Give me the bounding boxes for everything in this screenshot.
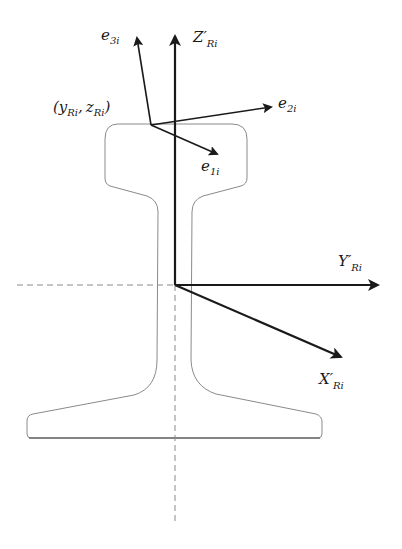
e3-vector-arrow	[137, 38, 151, 125]
x-axis-arrow	[175, 285, 341, 357]
e2-label: e2i	[278, 94, 296, 114]
e2-vector-arrow	[151, 107, 271, 125]
x-axis-label: X′Ri	[318, 370, 344, 391]
e1-label: e1i	[201, 157, 219, 177]
e1-vector-arrow	[151, 125, 217, 154]
rail-frame-diagram: e3i Z′Ri e2i (yRi,zRi) e1i Y′Ri X′Ri	[0, 0, 402, 549]
contact-point-label: (yRi,zRi)	[53, 98, 111, 118]
y-axis-label: Y′Ri	[338, 252, 362, 273]
z-axis-label: Z′Ri	[192, 28, 218, 49]
e3-label: e3i	[101, 26, 119, 46]
